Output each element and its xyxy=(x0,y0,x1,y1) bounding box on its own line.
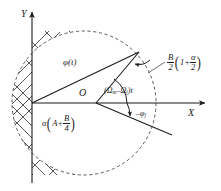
phi-of-t-label: φ(t) xyxy=(63,58,76,67)
radius-expression-label: B 2 (1+ α 2 ) xyxy=(167,53,202,72)
b-over-2-fraction: B 2 xyxy=(167,53,174,72)
two-denominator: 2 xyxy=(167,63,174,72)
phasor-diagram-figure: Y X O φ(t) (Ωm–Ωj)t –φj B 2 (1+ α 2 ) α(… xyxy=(0,0,221,191)
radius-close-paren: ) xyxy=(197,54,201,71)
phi-j-ray-lower xyxy=(96,103,172,135)
one-plus-term: 1+ xyxy=(180,57,190,67)
alpha-close-paren: ) xyxy=(71,115,75,132)
y-axis-label: Y xyxy=(21,9,27,19)
neg-phi-subscript: j xyxy=(144,112,146,118)
alpha-open-paren: ( xyxy=(47,115,51,132)
b4-denominator: 4 xyxy=(63,124,70,133)
origin-label: O xyxy=(79,88,86,98)
omega-expr-t: t xyxy=(130,86,132,95)
b-over-4-fraction: B 4 xyxy=(63,114,70,133)
neg-phi-j-label: –φj xyxy=(136,110,146,119)
alpha-expression-label: α(A+ B 4 ) xyxy=(42,114,76,133)
alpha-over-2-fraction: α 2 xyxy=(190,53,196,72)
x-axis-label: X xyxy=(188,108,194,118)
alpha-denominator: 2 xyxy=(190,63,196,72)
radius-open-paren: ( xyxy=(175,54,179,71)
neg-phi-j-arc xyxy=(127,103,130,116)
omega-difference-angle-label: (Ωm–Ωj)t xyxy=(104,87,133,96)
radius-leader-line xyxy=(148,62,165,73)
